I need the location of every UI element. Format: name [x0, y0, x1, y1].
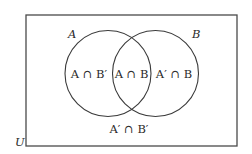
region-a-not-b: A ∩ B′ [70, 67, 108, 81]
set-a-label: A [67, 27, 76, 41]
region-a-and-b: A ∩ B [114, 67, 149, 81]
universe-label: U [15, 135, 25, 149]
venn-diagram: A B A ∩ B′ A ∩ B A′ ∩ B A′ ∩ B′ U [0, 0, 252, 154]
region-neither: A′ ∩ B′ [109, 122, 149, 136]
region-b-not-a: A′ ∩ B [155, 67, 192, 81]
set-b-label: B [191, 27, 200, 41]
